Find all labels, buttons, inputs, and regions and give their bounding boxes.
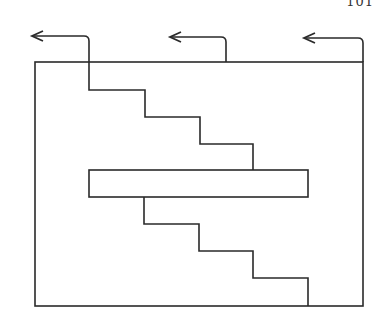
flow-arrows xyxy=(32,31,363,62)
bar-rectangle xyxy=(89,170,308,197)
outer-rectangle xyxy=(35,62,363,306)
lower-staircase xyxy=(144,197,308,306)
lower-staircase-line xyxy=(144,197,308,306)
outer-box xyxy=(35,62,363,306)
upper-staircase-line xyxy=(89,62,253,170)
upper-staircase xyxy=(89,62,253,170)
staircase-diagram xyxy=(0,0,384,314)
horizontal-bar xyxy=(89,170,308,197)
